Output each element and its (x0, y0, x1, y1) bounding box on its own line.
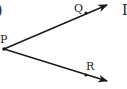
partial-left-glyph: ) (0, 2, 2, 18)
vertex-point-p (2, 47, 6, 51)
label-q: Q (74, 2, 83, 15)
ray-pq (4, 5, 107, 49)
point-q (84, 11, 87, 14)
angle-diagram: ) I P Q R (0, 0, 127, 89)
partial-right-glyph: I (122, 2, 127, 18)
label-r: R (86, 60, 95, 73)
point-r (84, 73, 87, 76)
label-p: P (0, 33, 8, 46)
